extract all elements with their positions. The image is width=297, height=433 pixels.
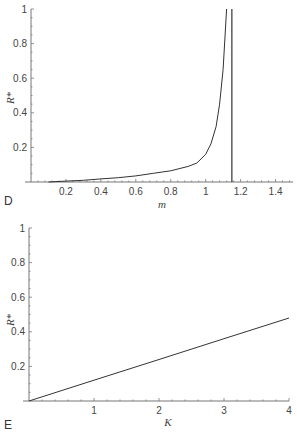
y-tick-label: 0.6 <box>13 73 27 84</box>
y-tick-label: 1 <box>21 4 27 15</box>
chart-panel-d: 0.20.40.60.811.21.40.20.40.60.81 <box>13 4 293 198</box>
y-tick-label: 0.2 <box>11 361 25 372</box>
y-tick-label: 0.8 <box>11 257 25 268</box>
chart-panel-e: 12340.20.40.60.81 <box>11 223 292 417</box>
x-tick-label: 4 <box>286 405 292 416</box>
figure: 0.20.40.60.811.21.40.20.40.60.81 12340.2… <box>0 0 297 433</box>
y-tick-label: 0.4 <box>11 326 25 337</box>
x-tick-label: 0.8 <box>164 186 178 197</box>
x-tick-label: 3 <box>221 405 227 416</box>
y-tick-label: 0.6 <box>11 292 25 303</box>
data-line <box>49 9 227 182</box>
x-tick-label: 0.4 <box>94 186 108 197</box>
x-tick-label: 1 <box>203 186 209 197</box>
x-tick-label: 2 <box>156 405 162 416</box>
x-tick-label: 1.4 <box>269 186 283 197</box>
x-tick-label: 0.2 <box>59 186 73 197</box>
data-line <box>29 318 289 401</box>
y-tick-label: 0.4 <box>13 107 27 118</box>
panel-label-d: D <box>4 194 13 208</box>
panel-label-e: E <box>4 418 12 432</box>
y-tick-label: 1 <box>19 223 25 234</box>
y-tick-label: 0.8 <box>13 38 27 49</box>
x-tick-label: 0.6 <box>129 186 143 197</box>
x-axis-label-d: m <box>158 198 166 210</box>
x-tick-label: 1 <box>91 405 97 416</box>
y-tick-label: 0.2 <box>13 142 27 153</box>
y-axis-label-e: R* <box>4 313 16 327</box>
x-tick-label: 1.2 <box>234 186 248 197</box>
y-axis-label-d: R* <box>4 91 16 105</box>
x-axis-label-e: K <box>163 416 172 428</box>
